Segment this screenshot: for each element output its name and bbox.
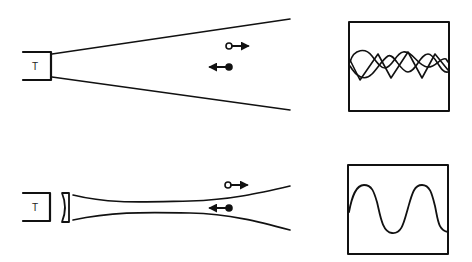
transducer-top: T	[23, 52, 51, 80]
beam-diverging	[52, 19, 290, 110]
particle-moving-left	[210, 63, 233, 71]
panel-diverging-beam: T	[23, 19, 449, 111]
acoustic-lens	[62, 193, 69, 222]
beam-edge-lower	[73, 213, 290, 230]
particle-moving-left	[210, 204, 233, 212]
beam-edge-upper	[73, 186, 290, 202]
oscilloscope-bottom	[348, 165, 448, 254]
transducer-label: T	[32, 202, 38, 213]
diagram: T T	[0, 0, 472, 262]
lens-icon	[62, 193, 69, 222]
beam-edge-upper	[52, 19, 290, 54]
beam-edge-lower	[52, 77, 290, 110]
oscilloscope-top	[349, 22, 449, 111]
beam-focused	[73, 186, 290, 230]
transducer-label: T	[32, 61, 38, 72]
scope-frame	[348, 165, 448, 254]
waveform-sine	[349, 185, 448, 233]
particle-moving-right	[225, 182, 247, 188]
transducer-bottom: T	[23, 193, 50, 221]
panel-focused-beam: T	[23, 165, 448, 254]
particle-moving-right	[226, 43, 248, 49]
